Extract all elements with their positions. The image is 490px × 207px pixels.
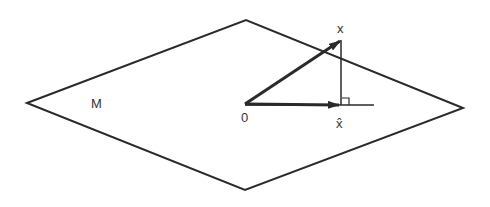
x-label: x — [337, 21, 344, 36]
xhat-label: x̂ — [336, 116, 343, 131]
vector-x-arrow — [245, 41, 340, 104]
right-angle-marker — [342, 98, 349, 105]
projection-diagram: M 0 x x̂ — [0, 0, 490, 207]
plane-label: M — [91, 96, 102, 111]
vector-xhat-arrow — [245, 104, 339, 105]
origin-label: 0 — [241, 110, 248, 125]
